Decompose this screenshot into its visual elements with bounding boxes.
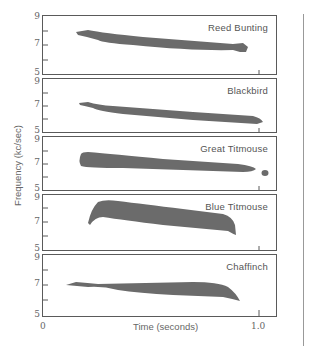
- y-tick-5: 5: [28, 309, 40, 319]
- y-tick-7: 7: [28, 157, 40, 167]
- y-axis-label: Frequency (kc/sec): [12, 111, 23, 221]
- panel-blue-titmouse: Blue Titmouse: [42, 194, 277, 251]
- x-tick-1: 1.0: [251, 321, 265, 331]
- panel-label: Great Titmouse: [200, 143, 268, 154]
- panel-label: Blackbird: [227, 85, 268, 96]
- panel-label: Reed Bunting: [208, 22, 268, 33]
- y-tick-9: 9: [28, 192, 40, 202]
- panel-blackbird: Blackbird: [42, 78, 277, 133]
- x-axis-label: Time (seconds): [133, 321, 198, 332]
- y-tick-9: 9: [28, 76, 40, 86]
- panel-label: Chaffinch: [226, 261, 268, 272]
- y-tick-9: 9: [28, 252, 40, 262]
- panel-label: Blue Titmouse: [205, 201, 268, 212]
- page-margin-rule: [303, 14, 304, 346]
- y-tick-7: 7: [28, 278, 40, 288]
- panel-great-titmouse: Great Titmouse: [42, 136, 277, 191]
- y-tick-9: 9: [28, 11, 40, 21]
- y-tick-7: 7: [28, 38, 40, 48]
- panel-reed-bunting: Reed Bunting: [42, 15, 277, 75]
- y-tick-7: 7: [28, 99, 40, 109]
- y-tick-9: 9: [28, 134, 40, 144]
- y-tick-7: 7: [28, 216, 40, 226]
- panel-chaffinch: Chaffinch: [42, 254, 277, 317]
- x-tick-0: 0: [40, 321, 46, 331]
